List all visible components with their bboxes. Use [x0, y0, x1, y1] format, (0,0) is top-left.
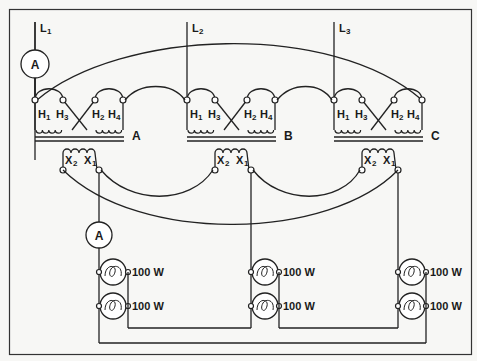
svg-text:X: X [65, 154, 73, 166]
svg-text:H: H [92, 108, 100, 120]
primary-delta-closing-wire [37, 44, 422, 100]
svg-text:2: 2 [225, 159, 230, 168]
primary-link-A-B [125, 87, 185, 101]
line-label-L2: L [192, 22, 199, 34]
svg-text:H: H [391, 108, 399, 120]
secondary-link-A-B [101, 170, 213, 196]
transformer-B: H 1 H 3 H 2 H 4 B X 2 X 1 [184, 89, 293, 173]
lamp-rating: 100 W [132, 300, 164, 312]
svg-text:3: 3 [216, 113, 221, 122]
svg-text:2: 2 [252, 113, 257, 122]
lamp-group-B: 100 W 100 W [249, 259, 316, 328]
lamp-rating: 100 W [430, 300, 462, 312]
lamp-rating: 100 W [283, 300, 315, 312]
svg-text:1: 1 [198, 113, 203, 122]
lamp-rating: 100 W [283, 266, 315, 278]
line-label-L3: L [339, 22, 346, 34]
svg-text:H: H [38, 108, 46, 120]
svg-text:X: X [364, 154, 372, 166]
svg-text:3: 3 [64, 113, 69, 122]
line-label-L1: L [40, 22, 47, 34]
svg-text:1: 1 [47, 27, 52, 36]
svg-text:1: 1 [92, 159, 97, 168]
svg-text:H: H [190, 108, 198, 120]
transformer-label-C: C [431, 129, 440, 143]
transformer-A: H 1 H 3 H 2 H 4 A X 2 X 1 [32, 89, 141, 173]
svg-text:3: 3 [363, 113, 368, 122]
transformer-label-B: B [284, 129, 293, 143]
svg-text:H: H [355, 108, 363, 120]
svg-text:H: H [56, 108, 64, 120]
svg-text:1: 1 [46, 113, 51, 122]
svg-text:2: 2 [100, 113, 105, 122]
lamp-group-C: 100 W 100 W [396, 259, 463, 343]
primary-link-B-C [277, 87, 332, 101]
svg-text:1: 1 [391, 159, 396, 168]
svg-text:1: 1 [345, 113, 350, 122]
svg-text:2: 2 [199, 27, 204, 36]
secondary-ammeter: A [86, 222, 112, 248]
transformer-label-A: A [132, 129, 141, 143]
secondary-link-B-C [253, 170, 360, 196]
lamp-group-A: 100 W 100 W [97, 259, 165, 328]
svg-text:H: H [337, 108, 345, 120]
svg-text:X: X [84, 154, 92, 166]
terminal-H1 [32, 97, 38, 103]
terminal-H3 [60, 97, 66, 103]
secondary-delta-closing-wire [63, 170, 398, 224]
lamp-rating: 100 W [132, 266, 164, 278]
svg-text:4: 4 [116, 113, 121, 122]
primary-ammeter: A [21, 50, 49, 78]
svg-text:H: H [244, 108, 252, 120]
svg-text:X: X [236, 154, 244, 166]
svg-text:4: 4 [268, 113, 273, 122]
svg-text:2: 2 [372, 159, 377, 168]
svg-text:1: 1 [244, 159, 249, 168]
svg-text:X: X [383, 154, 391, 166]
lamp-rating: 100 W [430, 266, 462, 278]
transformer-C: H 1 H 3 H 2 H 4 C X 2 X 1 [331, 89, 440, 173]
svg-text:H: H [407, 108, 415, 120]
transformer-bank-diagram: L 1 L 2 L 3 A [0, 0, 477, 361]
svg-text:3: 3 [346, 27, 351, 36]
svg-text:H: H [108, 108, 116, 120]
svg-text:2: 2 [399, 113, 404, 122]
svg-text:X: X [217, 154, 225, 166]
terminal-H2 [92, 97, 98, 103]
svg-text:2: 2 [73, 159, 78, 168]
svg-text:H: H [208, 108, 216, 120]
svg-text:H: H [260, 108, 268, 120]
svg-text:4: 4 [415, 113, 420, 122]
svg-text:A: A [95, 229, 104, 243]
svg-text:A: A [31, 58, 40, 72]
